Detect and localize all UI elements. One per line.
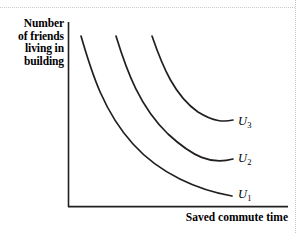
curve-label-u2: U2 xyxy=(238,151,251,166)
y-axis-label-line-2: of friends xyxy=(4,30,64,43)
indifference-curve-figure: Number of friends living in building Sav… xyxy=(0,0,305,233)
curve-label-u1: U1 xyxy=(238,187,251,202)
curve-label-u2-subscript: 2 xyxy=(247,157,251,167)
indifference-curve-u1 xyxy=(81,36,232,196)
y-axis-label-line-1: Number xyxy=(4,17,64,30)
y-axis-label-line-3: living in xyxy=(4,42,64,55)
x-axis-label: Saved commute time xyxy=(160,211,288,223)
curve-label-u1-base: U xyxy=(238,187,247,201)
curve-label-u3: U3 xyxy=(238,114,251,129)
curve-label-u3-base: U xyxy=(238,114,247,128)
curve-label-u3-subscript: 3 xyxy=(247,120,251,130)
y-axis-label-line-4: building xyxy=(4,55,64,68)
indifference-curve-u3 xyxy=(152,36,233,121)
curve-label-u2-base: U xyxy=(238,151,247,165)
y-axis-label: Number of friends living in building xyxy=(4,17,64,67)
curve-label-u1-subscript: 1 xyxy=(247,193,251,203)
indifference-curve-u2 xyxy=(116,36,233,161)
